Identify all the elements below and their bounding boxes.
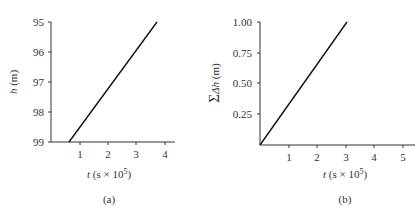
y-tick-label: 99 xyxy=(33,136,45,148)
y-axis-label-a: h (m) xyxy=(7,70,20,94)
x-tick-label: 2 xyxy=(314,151,320,163)
y-tick-label: 95 xyxy=(33,16,45,28)
y-axis-label-b: ΣΔh (m) xyxy=(206,63,222,103)
chart-a: 95 96 97 98 99 1 2 3 4 h (m) t (s × 105)… xyxy=(7,16,175,206)
y-tick-label: 0.75 xyxy=(233,47,253,59)
x-tick-label: 4 xyxy=(162,148,168,160)
y-tick-label: 1.00 xyxy=(233,16,253,28)
x-tick-label: 2 xyxy=(105,148,111,160)
y-tick-label: 0.25 xyxy=(233,108,253,120)
x-tick-label: 3 xyxy=(133,148,139,160)
x-tick-label: 4 xyxy=(371,151,377,163)
caption-b: (b) xyxy=(339,193,352,206)
caption-a: (a) xyxy=(103,193,116,206)
data-line-b xyxy=(260,22,347,145)
x-tick-label: 3 xyxy=(343,151,349,163)
y-tick-label: 96 xyxy=(33,46,45,58)
x-axis-label-b: t (s × 105) xyxy=(323,167,367,181)
x-tick-label: 5 xyxy=(400,151,406,163)
y-tick-label: 0.50 xyxy=(233,77,253,89)
x-tick-label: 1 xyxy=(286,151,292,163)
chart-b: 1.00 0.75 0.50 0.25 1 2 3 4 5 ΣΔh (m) t … xyxy=(206,16,415,206)
y-tick-label: 98 xyxy=(33,106,45,118)
figure: 95 96 97 98 99 1 2 3 4 h (m) t (s × 105)… xyxy=(0,0,420,214)
x-tick-label: 1 xyxy=(77,148,83,160)
y-tick-label: 97 xyxy=(33,76,45,88)
x-axis-label-a: t (s × 105) xyxy=(87,167,131,181)
data-line-a xyxy=(69,22,157,142)
